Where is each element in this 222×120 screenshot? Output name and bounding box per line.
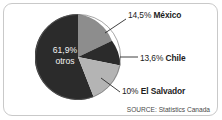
label-mexico-country: México — [153, 10, 181, 20]
pie-svg — [35, 14, 121, 100]
source-note: SOURCE: Statistics Canada — [127, 106, 210, 113]
label-mexico-percent: 14,5% — [128, 10, 151, 20]
label-el-salvador-country: El Salvador — [141, 86, 186, 96]
label-chile: 13,6% Chile — [140, 54, 185, 62]
pie-chart-figure: 61,9% otros 14,5% México 13,6% Chile 10%… — [0, 0, 222, 120]
label-el-salvador-percent: 10% — [122, 86, 138, 96]
label-el-salvador: 10% El Salvador — [122, 87, 185, 95]
pie-chart — [35, 14, 121, 100]
label-chile-country: Chile — [165, 53, 185, 63]
label-chile-percent: 13,6% — [140, 53, 163, 63]
label-mexico: 14,5% México — [128, 11, 181, 19]
